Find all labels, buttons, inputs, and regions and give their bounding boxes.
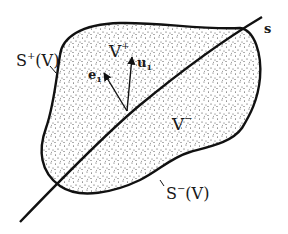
label-s-minus-v: S−(V) <box>166 183 209 203</box>
label-s: s <box>264 21 271 36</box>
label-s-plus-v: S+(V) <box>16 50 59 70</box>
s-minus-leader-line <box>160 180 164 186</box>
region-diagram: V+ V− e1 u1 S+(V) S−(V) s <box>0 0 288 234</box>
